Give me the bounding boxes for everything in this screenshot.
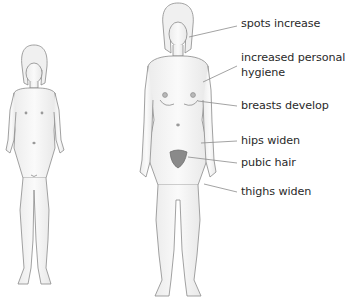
adolescent-figure	[140, 3, 216, 296]
child-figure	[6, 45, 64, 284]
label-breasts-develop: breasts develop	[241, 99, 329, 113]
label-hygiene: hygiene	[241, 66, 285, 80]
label-spots-increase: spots increase	[241, 17, 320, 31]
label-thighs-widen: thighs widen	[241, 185, 311, 199]
leader-spots	[189, 26, 237, 37]
label-increased-personal: increased personal	[241, 51, 345, 65]
label-hips-widen: hips widen	[241, 134, 300, 148]
label-pubic-hair: pubic hair	[241, 156, 296, 170]
leader-thighs	[204, 184, 237, 192]
